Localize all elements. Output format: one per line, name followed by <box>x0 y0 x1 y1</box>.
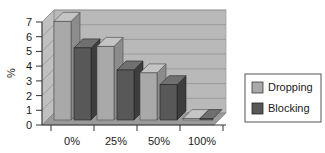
y-tick-label-1: 1 <box>26 104 32 116</box>
y-tick-label-3: 3 <box>26 75 32 87</box>
y-axis-title: % <box>5 68 17 78</box>
y-tick-label-4: 4 <box>26 60 32 72</box>
bar-face <box>117 70 134 120</box>
bar-face <box>140 73 157 120</box>
legend: Dropping Blocking <box>245 74 321 122</box>
bar-blocking-0pct <box>74 39 100 120</box>
x-tick-label-25pct: 25% <box>105 135 127 147</box>
y-tick-label-2: 2 <box>26 90 32 102</box>
y-tick-label-7: 7 <box>26 16 32 28</box>
x-tick-label-50pct: 50% <box>148 135 170 147</box>
y-tick-label-0: 0 <box>26 119 32 131</box>
y-tick-label-6: 6 <box>26 31 32 43</box>
left-side-wall <box>42 10 54 125</box>
legend-label-blocking: Blocking <box>268 102 310 114</box>
legend-swatch-blocking <box>252 103 263 114</box>
bar-face <box>54 21 71 120</box>
legend-item-dropping[interactable]: Dropping <box>252 81 313 93</box>
chart-svg: 7 6 5 4 3 2 1 0 % <box>0 0 325 153</box>
bar-blocking-25pct <box>117 61 143 120</box>
y-tick-label-5: 5 <box>26 45 32 57</box>
y-axis: 7 6 5 4 3 2 1 0 <box>26 16 42 131</box>
x-tick-label-100pct: 100% <box>188 135 216 147</box>
bar-face <box>200 119 213 120</box>
legend-swatch-dropping <box>252 82 263 93</box>
x-axis: 0% 25% 50% 100% <box>42 125 226 147</box>
x-tick-label-0pct: 0% <box>64 135 80 147</box>
bar-face <box>74 48 91 120</box>
bar-face <box>160 85 177 120</box>
bar-chart: 7 6 5 4 3 2 1 0 % <box>0 0 325 153</box>
legend-item-blocking[interactable]: Blocking <box>252 102 310 114</box>
bar-face <box>183 119 200 120</box>
bar-blocking-50pct <box>160 76 186 120</box>
legend-label-dropping: Dropping <box>268 81 313 93</box>
bar-face <box>97 46 114 120</box>
